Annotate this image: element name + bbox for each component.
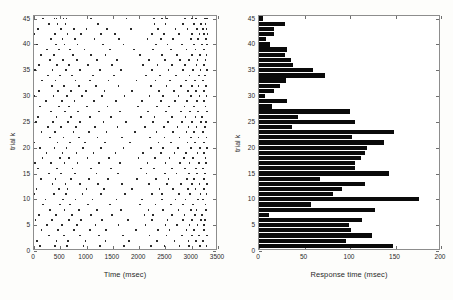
raster-dot [141, 100, 143, 102]
raster-dot [48, 23, 50, 25]
raster-dot [135, 229, 137, 231]
raster-dot [188, 245, 190, 247]
raster-dot [117, 173, 119, 175]
raster-dot [60, 126, 62, 128]
raster-dot [70, 178, 72, 180]
raster-dot [188, 59, 190, 61]
raster-dot [67, 240, 69, 242]
raster-dot [41, 131, 43, 133]
raster-dot [101, 219, 103, 221]
raster-dot [59, 204, 61, 206]
response-bar [259, 16, 263, 20]
raster-dot [69, 142, 71, 144]
raster-dot [87, 204, 89, 206]
x-tick-label: 3500 [210, 253, 224, 260]
raster-dot [128, 240, 130, 242]
raster-dot [52, 69, 54, 71]
x-tick-top [396, 16, 397, 19]
raster-dot [192, 204, 194, 206]
x-tick-label: 2000 [131, 253, 145, 260]
raster-dot [85, 90, 87, 92]
raster-dot [200, 193, 202, 195]
raster-dot [85, 240, 87, 242]
raster-dot [166, 18, 168, 20]
response-panel: Response time (msec) trial k 05010015020… [226, 0, 453, 300]
raster-dot [56, 116, 58, 118]
raster-dot [178, 193, 180, 195]
raster-dot [42, 157, 44, 159]
raster-dot [172, 131, 174, 133]
raster-dot [105, 54, 107, 56]
raster-dot [167, 44, 169, 46]
raster-dot [206, 193, 208, 195]
raster-dot [145, 75, 147, 77]
x-tick-label: 200 [435, 253, 446, 260]
raster-dot [75, 80, 77, 82]
raster-dot [162, 95, 164, 97]
y-tick-right [213, 174, 216, 175]
raster-dot [99, 69, 101, 71]
raster-dot [55, 178, 57, 180]
raster-dot [51, 85, 53, 87]
raster-dot [35, 121, 37, 123]
response-bar [259, 202, 311, 206]
raster-dot [149, 137, 151, 139]
raster-dot [53, 54, 55, 56]
raster-dot [34, 69, 36, 71]
y-tick-label: 45 [14, 14, 30, 21]
raster-dot [90, 168, 92, 170]
response-bar [259, 140, 384, 144]
raster-dot [155, 178, 157, 180]
raster-dot [118, 85, 120, 87]
raster-dot [201, 116, 203, 118]
raster-dot [190, 147, 192, 149]
raster-dot [170, 142, 172, 144]
raster-dot [196, 173, 198, 175]
y-tick-label: 0 [14, 247, 30, 254]
raster-dot [154, 116, 156, 118]
raster-dot [45, 100, 47, 102]
raster-dot [70, 116, 72, 118]
response-bar [259, 223, 349, 227]
raster-dot [206, 69, 208, 71]
raster-dot [193, 178, 195, 180]
raster-dot [59, 75, 61, 77]
response-bar [259, 53, 285, 57]
raster-dot [89, 116, 91, 118]
raster-dot [203, 224, 205, 226]
raster-dot [133, 49, 135, 51]
raster-dot [134, 131, 136, 133]
raster-dot [88, 178, 90, 180]
raster-dot [195, 90, 197, 92]
raster-dot [205, 38, 207, 40]
y-tick [34, 174, 37, 175]
raster-dot [185, 152, 187, 154]
y-tick-right [436, 225, 439, 226]
y-tick-label: 10 [14, 195, 30, 202]
raster-dot [38, 64, 40, 66]
y-tick [34, 199, 37, 200]
raster-dot [79, 235, 81, 237]
raster-dot [195, 18, 197, 20]
raster-dot [161, 18, 163, 20]
raster-dot [204, 219, 206, 221]
y-tick-right [213, 225, 216, 226]
x-tick [113, 246, 114, 249]
raster-dot [206, 95, 208, 97]
raster-dot [178, 95, 180, 97]
raster-dot [163, 126, 165, 128]
raster-dot [66, 147, 68, 149]
raster-dot [180, 183, 182, 185]
raster-dot [159, 75, 161, 77]
raster-dot [196, 100, 198, 102]
raster-dot [204, 173, 206, 175]
raster-dot [96, 173, 98, 175]
raster-dot [56, 18, 58, 20]
y-tick [34, 148, 37, 149]
response-bar [259, 244, 393, 248]
raster-dot [123, 245, 125, 247]
raster-dot [191, 18, 193, 20]
raster-dot [195, 49, 197, 51]
raster-dot [197, 111, 199, 113]
raster-dot [197, 224, 199, 226]
